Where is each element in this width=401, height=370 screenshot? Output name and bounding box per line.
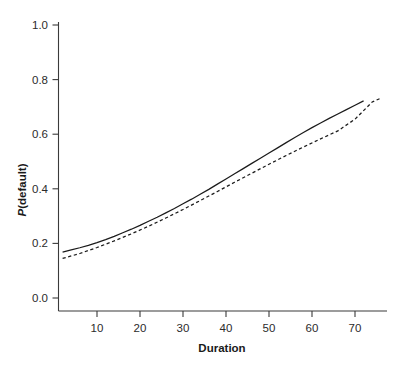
y-tick-label: 0.6 (32, 128, 48, 140)
chart-background (0, 0, 401, 370)
y-axis-title-rest: (default) (16, 163, 28, 209)
x-tick-label: 70 (349, 322, 362, 334)
x-tick-label: 50 (263, 322, 276, 334)
y-axis-title: P(default) (16, 163, 28, 216)
x-tick-label: 60 (306, 322, 319, 334)
y-axis-title-text: P(default) (16, 163, 28, 216)
x-axis-title: Duration (198, 342, 245, 354)
y-tick-label: 0.4 (32, 183, 49, 195)
x-tick-label: 20 (134, 322, 147, 334)
x-tick-label: 10 (91, 322, 104, 334)
y-tick-label: 1.0 (32, 19, 48, 31)
chart-container: 0.00.20.40.60.81.0 10203040506070 Durati… (0, 0, 401, 370)
x-tick-label: 30 (177, 322, 190, 334)
line-chart-plot: 0.00.20.40.60.81.0 10203040506070 Durati… (0, 0, 401, 370)
y-tick-label: 0.8 (32, 74, 48, 86)
y-tick-label: 0.2 (32, 237, 48, 249)
x-tick-label: 40 (220, 322, 233, 334)
y-tick-label: 0.0 (32, 292, 48, 304)
